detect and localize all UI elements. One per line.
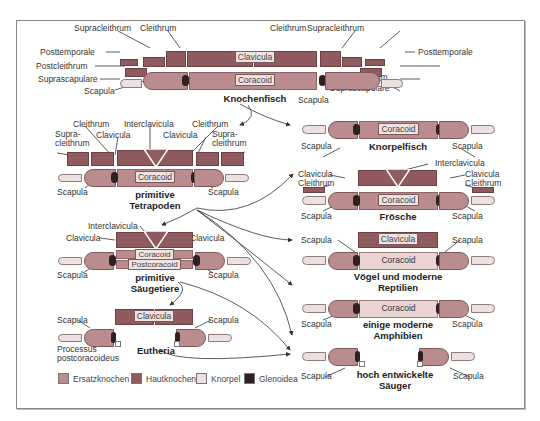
label-postcoracoid: Postcoracoid (116, 260, 193, 269)
title-hoch-saeuger-2: Säuger (340, 380, 450, 391)
bone-scapula-right (439, 121, 469, 139)
bone-scapula-right (439, 300, 469, 318)
bone-supracleithrum-left (67, 152, 89, 166)
bone-cleithrum-left (166, 51, 186, 67)
title-voegel-1: Vögel und moderne (338, 271, 458, 282)
title-hoch-saeuger-1: hoch entwickelte (340, 369, 450, 380)
interclavicula-notch (140, 149, 172, 169)
bone-cleithrum-right (320, 51, 341, 67)
bone-scapula-right (439, 192, 469, 210)
bone-scapula-right (439, 252, 469, 270)
label-posttemporale-right: Posttemporale (418, 48, 473, 57)
legend-hautknochen: Hautknochen (131, 373, 196, 384)
label-clavicula: Clavicula (115, 312, 193, 321)
label-scapula-right: Scapula (208, 316, 239, 325)
bone-scapula-right (194, 169, 224, 187)
label-supracleithrum-right-2: cleithrum (212, 139, 246, 148)
label-cleithrum-left: Cleithrum (73, 120, 109, 129)
label-clavicula-right: Clavicula (190, 234, 225, 243)
bone-supracleithrum-left (143, 57, 165, 67)
label-interclavicula: Interclavicula (88, 222, 138, 231)
cartilage-left (302, 125, 326, 134)
title-voegel-2: Reptilien (338, 282, 458, 293)
cartilage-right (471, 125, 495, 134)
label-supracleithrum-right: Supracleithrum (307, 24, 364, 33)
legend-swatch-icon (196, 373, 207, 384)
label-supracleithrum-left: Supracleithrum (74, 24, 131, 33)
label-scapula-right: Scapula (452, 142, 483, 151)
cartilage-right (227, 257, 251, 265)
label-suprascapulare-left: Suprascapulare (38, 75, 98, 84)
title-amphibien-2: Amphibien (348, 330, 448, 341)
cartilage-right (471, 304, 495, 313)
glenoid-right (193, 255, 200, 266)
cartilage-suprascapulare-right (381, 79, 403, 88)
label-scapula-left: Scapula (57, 271, 88, 280)
label-clavicula-left: Clavicula (66, 234, 101, 243)
bone-scapula-left (328, 348, 358, 366)
bone-cleithrum-right (196, 152, 219, 166)
label-coracoid: Coracoid (359, 125, 438, 134)
label-clavicula-right: Clavicula (163, 131, 198, 140)
legend-swatch-icon (244, 373, 255, 384)
cartilage-left (302, 256, 326, 265)
title-primitive-saeugetiere-2: Säugetiere (115, 283, 195, 294)
label-cleithrum-right: Cleithrum (270, 24, 306, 33)
legend-label: Hautknochen (146, 374, 196, 384)
label-postcleithrum-left: Postcleithrum (36, 62, 88, 71)
label-scapula-right: Scapula (452, 212, 483, 221)
label-scapula-right: Scapula (208, 271, 239, 280)
title-amphibien-1: einige moderne (348, 319, 448, 330)
legend-label: Ersatzknochen (73, 374, 129, 384)
label-scapula-left: Scapula (57, 188, 88, 197)
label-scapula-right: Scapula (298, 96, 329, 105)
bone-cleithrum-left (91, 152, 114, 166)
cartilage-left (302, 352, 326, 361)
label-scapula-left: Scapula (57, 316, 88, 325)
label-scapula-left: Scapula (301, 212, 332, 221)
cartilage-left (302, 196, 326, 205)
cartilage-right (208, 334, 232, 342)
processus-left (359, 361, 365, 367)
bone-posttemporale-left (120, 59, 138, 66)
title-primitive-tetrapoden-1: primitive (115, 189, 195, 200)
cartilage-left (58, 334, 82, 342)
interclavicula-notch (382, 169, 414, 189)
cartilage-right (471, 256, 495, 265)
label-scapula-left: Scapula (84, 87, 115, 96)
label-clavicula: Clavicula (358, 235, 438, 244)
title-knochenfisch: Knochenfisch (210, 93, 300, 104)
bone-posttemporale-right (365, 59, 385, 66)
label-coracoid: Coracoid (359, 256, 438, 265)
bone-scapula-right (325, 72, 380, 90)
title-primitive-tetrapoden-2: Tetrapoden (115, 200, 195, 211)
legend-glenoidea: Glenoidea (244, 373, 298, 384)
label-scapula-right: Scapula (208, 188, 239, 197)
label-processus-2: postcoracoideus (57, 354, 119, 363)
legend-knorpel: Knorpel (196, 373, 240, 384)
cartilage-right (225, 174, 249, 182)
label-scapula-right: Scapula (452, 320, 483, 329)
label-scapula-left: Scapula (301, 372, 332, 381)
label-coracoid: Coracoid (116, 250, 193, 259)
label-cleithrum-left: Cleithrum (140, 24, 176, 33)
glenoid-left (182, 75, 189, 86)
cartilage-suprascapulare-left (120, 79, 142, 88)
label-coracoid: Coracoid (117, 173, 193, 182)
legend-label: Knorpel (211, 374, 240, 384)
label-supracleithrum-left-2: cleithrum (55, 139, 89, 148)
cartilage-right (451, 352, 475, 361)
interclavicula-notch (140, 231, 172, 251)
cartilage-left (58, 174, 82, 182)
label-clavicula-left: Clavicula (96, 131, 131, 140)
label-clavicula: Clavicula (210, 53, 300, 62)
legend-ersatzknochen: Ersatzknochen (58, 373, 129, 384)
label-coracoid: Coracoid (210, 76, 300, 85)
label-scapula-left: Scapula (301, 320, 332, 329)
label-cleithrum-right: Cleithrum (192, 120, 228, 129)
title-froesche: Frösche (358, 211, 438, 222)
bone-cleithrum-right (472, 187, 494, 193)
processus-right (417, 361, 423, 367)
label-scapula-right: Scapula (452, 236, 483, 245)
label-coracoid: Coracoid (359, 304, 438, 313)
